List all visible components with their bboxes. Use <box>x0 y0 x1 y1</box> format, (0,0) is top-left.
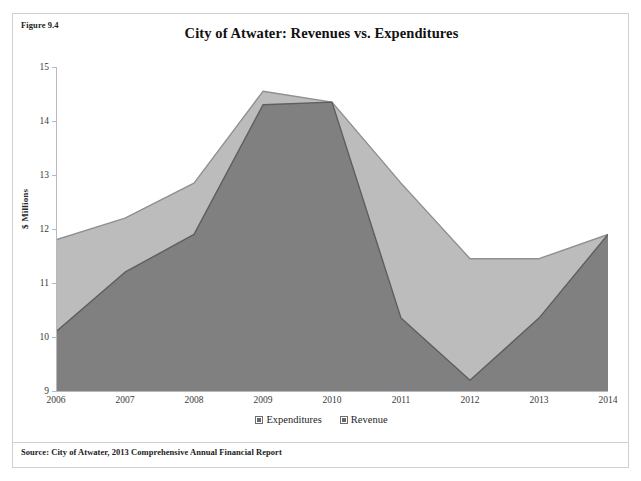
chart-title: City of Atwater: Revenues vs. Expenditur… <box>13 25 630 42</box>
y-axis-line <box>56 67 57 391</box>
plot-area: 9101112131415 20062007200820092010201120… <box>56 67 608 391</box>
legend-swatch-icon-revenue <box>340 416 348 424</box>
legend-label: Expenditures <box>266 414 321 425</box>
x-tick-label-2014: 2014 <box>599 395 618 405</box>
legend-label: Revenue <box>351 414 388 425</box>
x-tick-label-2006: 2006 <box>47 395 66 405</box>
y-tick-mark-9 <box>52 391 56 392</box>
y-axis-title: $ Millions <box>20 189 30 229</box>
x-tick-label-2009: 2009 <box>254 395 273 405</box>
x-tick-label-2012: 2012 <box>461 395 480 405</box>
legend-item-expenditures[interactable]: Expenditures <box>255 414 321 425</box>
y-tick-mark-13 <box>52 175 56 176</box>
page-top-scan-artifact <box>0 0 641 12</box>
source-divider <box>13 442 628 443</box>
x-tick-label-2008: 2008 <box>185 395 204 405</box>
y-tick-label-14: 14 <box>40 116 50 126</box>
chart-legend: ExpendituresRevenue <box>13 414 630 425</box>
y-tick-mark-11 <box>52 283 56 284</box>
x-tick-label-2011: 2011 <box>392 395 411 405</box>
figure-panel: Figure 9.4 City of Atwater: Revenues vs.… <box>12 13 629 468</box>
y-tick-label-13: 13 <box>40 170 50 180</box>
y-tick-label-11: 11 <box>40 278 49 288</box>
x-tick-label-2007: 2007 <box>116 395 135 405</box>
legend-item-revenue[interactable]: Revenue <box>340 414 388 425</box>
y-tick-label-10: 10 <box>40 332 50 342</box>
y-tick-mark-10 <box>52 337 56 338</box>
area-chart-svg <box>56 67 608 391</box>
y-tick-mark-12 <box>52 229 56 230</box>
y-tick-label-15: 15 <box>40 62 50 72</box>
x-tick-label-2013: 2013 <box>530 395 549 405</box>
y-tick-mark-14 <box>52 121 56 122</box>
x-tick-label-2010: 2010 <box>323 395 342 405</box>
y-tick-mark-15 <box>52 67 56 68</box>
y-tick-label-12: 12 <box>40 224 50 234</box>
x-axis-line <box>56 391 608 392</box>
legend-swatch-icon-expenditures <box>255 416 263 424</box>
source-note: Source: City of Atwater, 2013 Comprehens… <box>21 447 282 457</box>
